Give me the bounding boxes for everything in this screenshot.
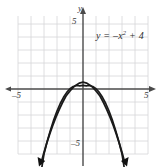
coordinate-plane [0,0,167,167]
equation-exponent: 2 [123,29,126,36]
x-axis [5,86,156,92]
equation-rhs-tail: + 4 [129,30,144,41]
equation-rhs-lead: –x [113,30,123,41]
x-axis-arrow-left [5,86,11,91]
equation-equals: = [103,30,110,41]
x-axis-tick-label-pos5: 5 [144,91,149,100]
x-axis-arrow-right [149,86,156,92]
graph-figure: –5 5 5 –5 y y = –x2 + 4 [0,0,167,167]
y-axis-name-label: y [78,4,82,13]
equation-lhs: y [96,30,101,41]
y-axis-tick-label-neg5: –5 [71,139,80,148]
x-axis-tick-label-neg5: –5 [12,91,21,100]
equation-annotation: y = –x2 + 4 [96,29,144,41]
y-axis-tick-label-pos5: 5 [72,17,77,26]
